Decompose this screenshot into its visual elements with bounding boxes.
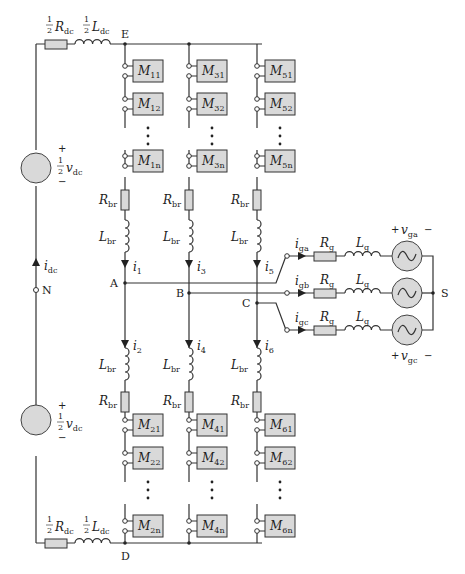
svg-text:B: B (176, 287, 184, 300)
svg-text:1: 1 (58, 412, 63, 421)
upper-arm-1: M11 M12 M1n Rbr Lbr i1 (98, 44, 163, 330)
svg-text:Ldc: Ldc (91, 520, 110, 536)
svg-text:Lbr: Lbr (230, 358, 248, 374)
svg-text:2: 2 (58, 423, 63, 432)
svg-text:C: C (242, 297, 250, 310)
svg-text:−: − (58, 176, 66, 187)
svg-text:E: E (121, 28, 129, 41)
svg-text:Lbr: Lbr (162, 230, 180, 246)
svg-text:Rbr: Rbr (162, 394, 181, 410)
svg-text:i2: i2 (133, 339, 142, 355)
svg-text:vdc: vdc (66, 417, 83, 433)
svg-text:2: 2 (84, 26, 89, 35)
top-dc-inductor (75, 40, 110, 44)
svg-text:Rbr: Rbr (162, 193, 181, 209)
svg-text:S: S (441, 287, 449, 300)
svg-text:D: D (121, 550, 130, 563)
svg-text:1: 1 (47, 515, 52, 524)
top-dc-resistor (45, 40, 67, 49)
lower-arm-4: i4 Lbr Rbr M41 M42 M4n (162, 330, 227, 543)
svg-text:Rbr: Rbr (230, 394, 249, 410)
svg-text:2: 2 (84, 526, 89, 535)
bottom-dc-source (21, 405, 51, 435)
svg-text:2: 2 (47, 526, 52, 535)
svg-text:i1: i1 (133, 260, 142, 276)
svg-text:2: 2 (47, 26, 52, 35)
svg-text:1: 1 (84, 15, 89, 24)
node-n-terminal (34, 288, 39, 293)
svg-text:Lbr: Lbr (98, 230, 116, 246)
svg-text:i6: i6 (265, 339, 274, 355)
svg-text:Lbr: Lbr (98, 358, 116, 374)
svg-text:Lbr: Lbr (230, 230, 248, 246)
svg-text:vdc: vdc (66, 161, 83, 177)
svg-text:1: 1 (84, 515, 89, 524)
svg-text:Rg: Rg (319, 236, 334, 252)
svg-text:i5: i5 (265, 260, 274, 276)
svg-text:1: 1 (58, 156, 63, 165)
svg-text:Ldc: Ldc (91, 20, 110, 36)
svg-text:Rbr: Rbr (230, 193, 249, 209)
svg-text:+: + (391, 224, 399, 235)
svg-text:+: + (58, 400, 66, 411)
svg-text:vga: vga (401, 223, 418, 239)
grid-phase-b: igb Rg Lg S (285, 273, 449, 308)
svg-text:−: − (424, 350, 432, 361)
top-dc-source (21, 153, 51, 183)
svg-text:Rg: Rg (319, 310, 334, 326)
svg-text:A: A (109, 277, 119, 290)
grid-phase-c: igc Rg Lg (285, 310, 422, 345)
svg-text:Lg: Lg (355, 236, 369, 252)
svg-text:Rdc: Rdc (54, 520, 74, 536)
svg-text:N: N (42, 284, 52, 297)
svg-text:+: + (391, 350, 399, 361)
svg-text:−: − (424, 224, 432, 235)
dc-loop (21, 40, 262, 548)
svg-text:Lg: Lg (355, 273, 369, 289)
svg-text:1: 1 (47, 15, 52, 24)
svg-text:i3: i3 (197, 260, 206, 276)
svg-text:vgc: vgc (401, 349, 418, 365)
svg-text:2: 2 (58, 167, 63, 176)
svg-text:idc: idc (44, 259, 58, 275)
mmc-circuit-diagram: 1 2 Rdc 1 2 Ldc E + 1 2 vdc − idc N + 1 … (0, 0, 465, 574)
svg-text:Lg: Lg (355, 310, 369, 326)
svg-text:igb: igb (295, 274, 309, 290)
lower-arm-2: i2 Lbr Rbr M21 M22 M2n (98, 330, 163, 543)
svg-text:Rg: Rg (319, 273, 334, 289)
svg-text:Rbr: Rbr (98, 193, 117, 209)
svg-text:igc: igc (295, 311, 309, 327)
idc-arrow-icon (32, 258, 40, 266)
svg-text:Lbr: Lbr (162, 358, 180, 374)
upper-arm-5: M51 M52 M5n Rbr Lbr i5 (230, 44, 295, 330)
svg-text:+: + (58, 143, 66, 154)
svg-text:Rbr: Rbr (98, 394, 117, 410)
bottom-dc-resistor (45, 539, 67, 548)
bottom-dc-inductor (75, 539, 110, 543)
svg-text:Rdc: Rdc (54, 20, 74, 36)
upper-arm-3: M31 M32 M3n Rbr Lbr i3 (162, 44, 227, 330)
svg-text:iga: iga (295, 237, 309, 253)
svg-text:i4: i4 (197, 339, 206, 355)
svg-text:−: − (58, 432, 66, 443)
lower-arm-6: i6 Lbr Rbr M61 M62 M6n (230, 330, 295, 543)
